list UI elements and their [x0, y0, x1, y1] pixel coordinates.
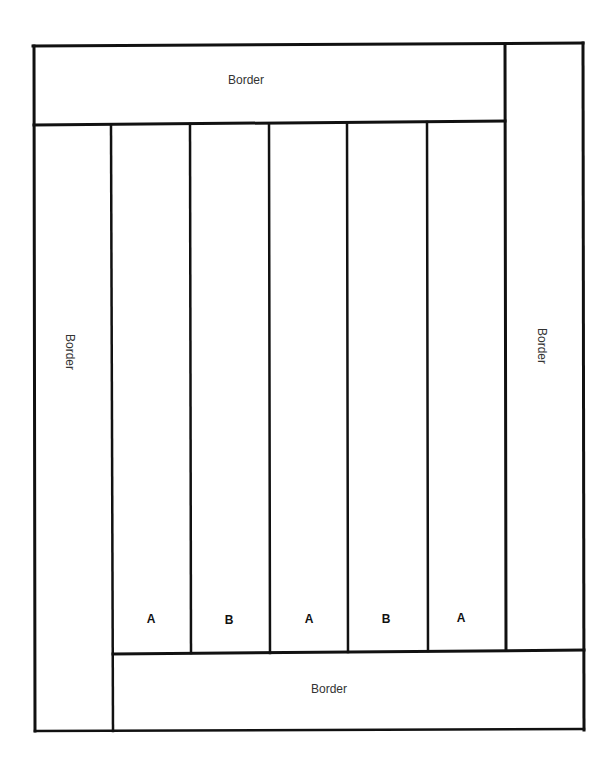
column-label-5: A	[451, 611, 471, 625]
outer-bottom-line	[35, 729, 584, 731]
column-label-2: B	[219, 613, 239, 627]
right-border-divider	[505, 44, 506, 650]
outer-top-line	[33, 43, 583, 46]
outer-right-line	[583, 43, 584, 730]
column-label-1: A	[141, 612, 161, 626]
left-border-divider	[111, 125, 113, 731]
column-divider	[347, 123, 348, 652]
column-divider	[427, 122, 428, 651]
column-divider	[269, 124, 270, 653]
right-border-label: Border	[535, 328, 549, 364]
column-divider	[190, 124, 191, 653]
outer-left-line	[34, 46, 35, 731]
column-label-4: B	[376, 612, 396, 626]
left-border-label: Border	[63, 334, 77, 370]
top-border-label: Border	[228, 73, 264, 87]
bottom-border-label: Border	[311, 682, 347, 696]
quilt-diagram	[0, 0, 614, 774]
column-label-3: A	[299, 612, 319, 626]
